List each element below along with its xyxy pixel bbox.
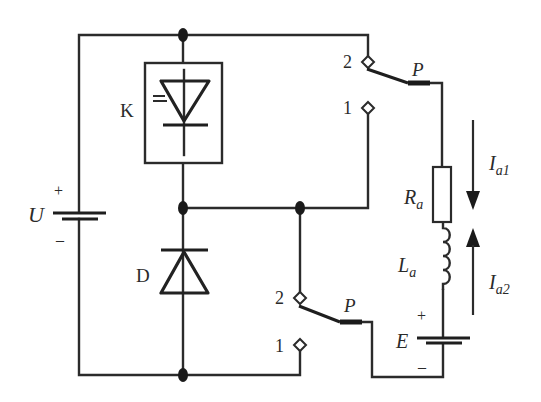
- switch-top: 2 1 P: [343, 52, 430, 118]
- source-e: E + –: [395, 307, 470, 375]
- source-u: U + –: [28, 182, 106, 248]
- resistor-ra-label: Ra: [403, 186, 423, 212]
- switch-top-terminal-2: 2: [343, 52, 352, 72]
- source-e-label: E: [395, 330, 408, 352]
- switch-bottom: 2 1 P: [275, 288, 362, 356]
- resistor-ra: Ra: [403, 167, 451, 222]
- switch-top-terminal-1: 1: [343, 98, 352, 118]
- diode-d-label: D: [136, 265, 150, 286]
- junction-top: [178, 28, 188, 42]
- circuit-diagram: U + – K D 2 1 P Ra La: [0, 0, 541, 402]
- switch-top-label: P: [411, 59, 424, 80]
- inductor-la-label: La: [397, 254, 416, 280]
- source-u-minus: –: [55, 231, 65, 248]
- junction-middle-right: [295, 201, 305, 215]
- current-ia1-label: Ia1: [488, 152, 510, 178]
- thyristor-k: K: [120, 63, 222, 163]
- switch-bottom-label: P: [343, 295, 356, 316]
- inductor-la: La: [397, 222, 450, 290]
- diode-d: D: [136, 250, 208, 293]
- source-e-plus: +: [417, 307, 426, 324]
- arrow-up-icon: [466, 228, 480, 247]
- switch-bottom-terminal-1: 1: [275, 336, 284, 356]
- source-e-minus: –: [417, 358, 427, 375]
- source-u-label: U: [28, 202, 46, 227]
- arrow-down-icon: [466, 191, 480, 210]
- source-u-plus: +: [54, 182, 63, 199]
- wires: [79, 35, 443, 377]
- thyristor-k-label: K: [120, 100, 134, 121]
- junction-bottom: [178, 368, 188, 382]
- switch-bottom-terminal-2: 2: [275, 288, 284, 308]
- current-ia2-label: Ia2: [488, 271, 510, 297]
- junction-middle: [178, 201, 188, 215]
- current-arrows: Ia1 Ia2: [466, 120, 510, 315]
